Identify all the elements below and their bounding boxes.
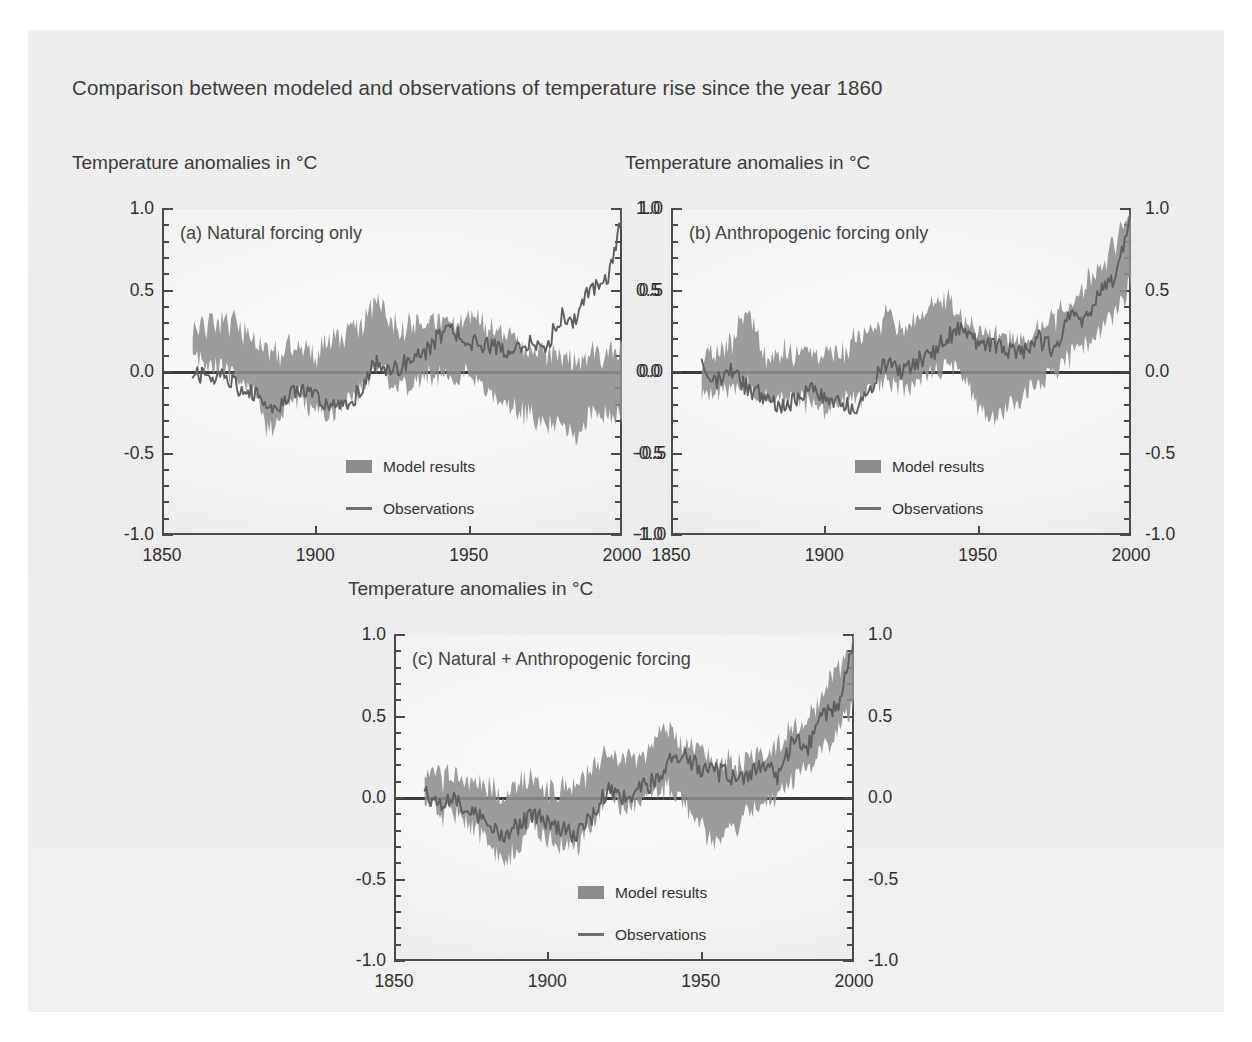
legend-item-model-results: Model results <box>855 454 984 480</box>
panel-label-c: (c) Natural + Anthropogenic forcing <box>412 649 691 670</box>
legend-item-observations: Observations <box>346 496 475 522</box>
legend-item-observations: Observations <box>855 496 984 522</box>
y-axis-label-right: -0.5 <box>1145 443 1197 464</box>
panel-label-b: (b) Anthropogenic forcing only <box>689 223 928 244</box>
y-axis-label: -0.5 <box>611 443 663 464</box>
legend-label-model-results: Model results <box>892 458 984 476</box>
panel-c-plot-area: -1.0-1.0-0.5-0.50.00.00.50.51.01.0185019… <box>394 635 854 961</box>
chart-panel-c: Temperature anomalies in °C -1.0-1.0-0.5… <box>348 578 908 998</box>
y-axis-label: -0.5 <box>102 443 154 464</box>
panel-a-plot-area: -1.0-1.0-0.5-0.50.00.00.50.51.01.0185019… <box>162 209 622 535</box>
figure-panel: Comparison between modeled and observati… <box>28 30 1224 1012</box>
y-axis-label: 1.0 <box>334 624 386 645</box>
x-axis-label: 1900 <box>805 545 844 566</box>
x-axis-label: 1900 <box>528 971 567 992</box>
y-axis-label: 0.0 <box>102 361 154 382</box>
y-axis-label: -1.0 <box>611 524 663 545</box>
observations-line-swatch <box>855 507 881 510</box>
y-axis-label: 0.5 <box>334 706 386 727</box>
panel-label-a: (a) Natural forcing only <box>180 223 362 244</box>
y-axis-label-right: -0.5 <box>868 869 920 890</box>
y-axis-label-right: 0.0 <box>868 787 920 808</box>
y-axis-label-right: -1.0 <box>868 950 920 971</box>
figure-title: Comparison between modeled and observati… <box>72 76 883 100</box>
chart-panel-b: Temperature anomalies in °C -1.0-1.0-0.5… <box>625 152 1185 572</box>
y-axis-label: -0.5 <box>334 869 386 890</box>
observations-line-swatch <box>578 933 604 936</box>
legend-label-model-results: Model results <box>383 458 475 476</box>
x-axis-label: 1950 <box>681 971 720 992</box>
panel-c-axis-title: Temperature anomalies in °C <box>348 578 593 600</box>
y-axis-label: 0.5 <box>611 280 663 301</box>
legend-label-observations: Observations <box>615 926 706 944</box>
legend-label-observations: Observations <box>892 500 983 518</box>
legend: Model resultsObservations <box>346 454 475 522</box>
y-axis-label-right: -1.0 <box>1145 524 1197 545</box>
panel-b-axis-title: Temperature anomalies in °C <box>625 152 870 174</box>
y-axis-label: -1.0 <box>102 524 154 545</box>
y-axis-label-right: 0.0 <box>1145 361 1197 382</box>
legend-label-observations: Observations <box>383 500 474 518</box>
legend-label-model-results: Model results <box>615 884 707 902</box>
legend-item-model-results: Model results <box>346 454 475 480</box>
legend: Model resultsObservations <box>578 880 707 948</box>
panel-a-axis-title: Temperature anomalies in °C <box>72 152 317 174</box>
x-axis-label: 2000 <box>1112 545 1151 566</box>
y-axis-label: 1.0 <box>611 198 663 219</box>
y-axis-label-right: 1.0 <box>1145 198 1197 219</box>
y-axis-label-right: 1.0 <box>868 624 920 645</box>
x-axis-label: 1950 <box>449 545 488 566</box>
y-axis-label: 0.5 <box>102 280 154 301</box>
y-axis-label: 1.0 <box>102 198 154 219</box>
x-axis-label: 1850 <box>143 545 182 566</box>
model-results-swatch <box>855 460 881 473</box>
observations-line-swatch <box>346 507 372 510</box>
x-axis-label: 2000 <box>835 971 874 992</box>
legend-item-model-results: Model results <box>578 880 707 906</box>
model-results-swatch <box>346 460 372 473</box>
y-axis-label: 0.0 <box>334 787 386 808</box>
chart-panel-a: Temperature anomalies in °C -1.0-1.0-0.5… <box>72 152 632 572</box>
x-axis-label: 1900 <box>296 545 335 566</box>
model-results-swatch <box>578 886 604 899</box>
model-results-band <box>193 294 622 446</box>
y-axis-label: 0.0 <box>611 361 663 382</box>
x-axis-label: 1850 <box>375 971 414 992</box>
legend-item-observations: Observations <box>578 922 707 948</box>
y-axis-label-right: 0.5 <box>1145 280 1197 301</box>
panel-b-plot-area: -1.0-1.0-0.5-0.50.00.00.50.51.01.0185019… <box>671 209 1131 535</box>
y-axis-label-right: 0.5 <box>868 706 920 727</box>
x-axis-label: 1850 <box>652 545 691 566</box>
y-axis-label: -1.0 <box>334 950 386 971</box>
legend: Model resultsObservations <box>855 454 984 522</box>
x-axis-label: 1950 <box>958 545 997 566</box>
